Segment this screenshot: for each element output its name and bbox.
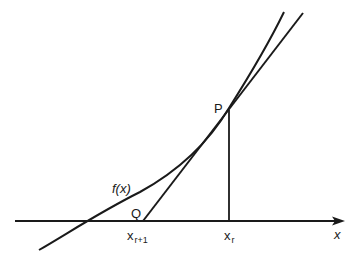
diagram-canvas: P Q f(x) xr+1 xr x: [0, 0, 356, 264]
x-next-label: xr+1: [127, 229, 148, 242]
x-curr-base: x: [224, 228, 231, 243]
diagram-svg: [0, 0, 356, 264]
x-axis-label: x: [334, 228, 341, 241]
point-q-label: Q: [131, 207, 141, 220]
point-p-label: P: [214, 102, 223, 115]
x-next-base: x: [127, 228, 134, 243]
x-curr-sub: r: [232, 235, 235, 245]
curve-label: f(x): [112, 182, 131, 195]
x-curr-label: xr: [224, 229, 235, 242]
x-next-sub: r+1: [135, 235, 148, 245]
curve-f: [39, 12, 284, 250]
tangent-line: [143, 13, 303, 221]
